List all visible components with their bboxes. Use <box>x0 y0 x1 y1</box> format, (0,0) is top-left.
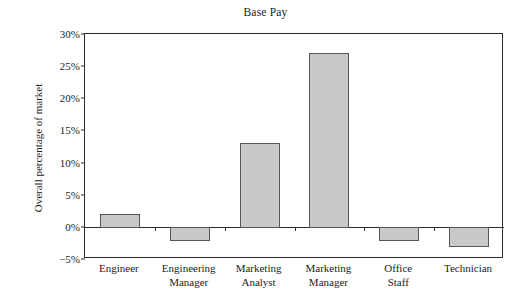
y-tick-label: 5% <box>65 189 80 200</box>
y-tick-label: −5% <box>59 254 80 265</box>
y-tick-label: 30% <box>60 29 80 40</box>
x-tick-mark <box>225 227 226 231</box>
x-axis-label-line1: Technician <box>444 262 492 274</box>
x-axis-label-line2: Manager <box>154 276 224 290</box>
x-tick-mark <box>155 227 156 231</box>
x-axis-label: Engineer <box>84 262 154 276</box>
bar-chart: Base Pay Overall percentage of market −5… <box>0 0 531 304</box>
x-axis-label: EngineeringManager <box>154 262 224 289</box>
bar <box>379 227 419 241</box>
bar <box>449 227 489 247</box>
x-axis-label-line2: Staff <box>363 276 433 290</box>
y-tick-label: 0% <box>65 221 80 232</box>
y-tick-mark <box>81 162 85 163</box>
y-tick-mark <box>81 259 85 260</box>
x-axis-label-line1: Engineering <box>162 262 216 274</box>
bar <box>170 227 210 241</box>
chart-title: Base Pay <box>0 6 531 18</box>
x-axis-label-line1: Marketing <box>236 262 282 274</box>
y-tick-mark <box>81 66 85 67</box>
x-axis-label-line2: Analyst <box>224 276 294 290</box>
y-tick-mark <box>81 194 85 195</box>
x-tick-mark <box>434 227 435 231</box>
y-tick-label: 10% <box>60 157 80 168</box>
x-axis-label: MarketingManager <box>294 262 364 289</box>
y-tick-mark <box>81 98 85 99</box>
y-tick-mark <box>81 226 85 227</box>
x-axis-label: MarketingAnalyst <box>224 262 294 289</box>
y-axis-title: Overall percentage of market <box>32 48 44 248</box>
x-axis-label-line1: Engineer <box>99 262 139 274</box>
bar <box>240 143 280 228</box>
x-axis-label: Technician <box>433 262 503 276</box>
y-tick-label: 15% <box>60 125 80 136</box>
x-tick-mark <box>364 227 365 231</box>
bar <box>309 53 349 228</box>
plot-area: −5%0%5%10%15%20%25%30% <box>84 33 503 258</box>
bar <box>100 214 140 228</box>
x-tick-mark <box>295 227 296 231</box>
y-tick-label: 20% <box>60 93 80 104</box>
y-tick-mark <box>81 34 85 35</box>
y-tick-label: 25% <box>60 61 80 72</box>
x-axis-label: OfficeStaff <box>363 262 433 289</box>
x-axis-label-line1: Marketing <box>306 262 352 274</box>
x-axis-label-line1: Office <box>384 262 412 274</box>
x-axis-label-line2: Manager <box>294 276 364 290</box>
y-tick-mark <box>81 130 85 131</box>
